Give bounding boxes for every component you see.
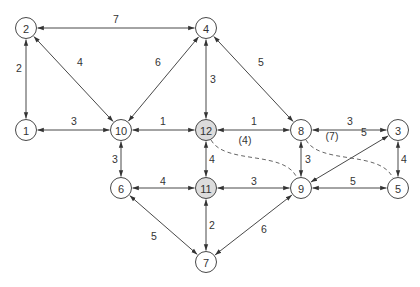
node-label: 1 [23,125,29,137]
edge-weight-label: 2 [16,62,22,74]
node-label: 10 [115,125,127,137]
network-graph: 724635311334345435526(4)(7) 123456789101… [0,0,420,287]
node-label: 12 [200,125,212,137]
edge-weight-label: 3 [71,115,77,127]
edge-weight-label: 4 [209,153,215,165]
edge-weight-label: 6 [261,223,267,235]
edge-weight-label: 2 [209,219,215,231]
node-1: 1 [16,120,37,141]
edge-weight-label: 4 [160,175,166,187]
edge-weight-label: 3 [305,153,311,165]
dashed-path-label: (7) [326,130,339,142]
node-7: 7 [196,252,217,273]
edge-weight-label: 6 [155,56,161,68]
node-4: 4 [196,18,217,39]
node-5: 5 [388,178,409,199]
edge-weight-label: 3 [347,115,353,127]
node-label: 4 [203,23,209,35]
edge-weight-label: 7 [113,13,119,25]
dashed-path-label: (4) [239,134,252,146]
node-12: 12 [196,120,217,141]
edge-weight-label: 4 [77,56,83,68]
edge-weight-label: 1 [160,115,166,127]
edge-weight-label: 4 [401,153,407,165]
edge-weight-label: 5 [361,126,367,138]
edge-weight-label: 5 [151,230,157,242]
edge-4-8 [214,36,293,121]
edge-weight-label: 5 [258,56,264,68]
edge-weight-label: 3 [112,153,118,165]
node-label: 8 [298,125,304,137]
nodes-layer: 123456789101112 [16,18,409,273]
node-label: 9 [298,183,304,195]
edge-4-10 [128,37,198,121]
edge-2-10 [34,36,113,121]
node-label: 11 [200,183,211,195]
dashed-path-12-9 [211,140,297,178]
node-label: 7 [203,257,209,269]
node-2: 2 [16,18,37,39]
edge-weight-label: 1 [251,115,257,127]
edge-weight-label: 3 [251,175,257,187]
edge-weight-label: 5 [350,175,356,187]
node-6: 6 [111,178,132,199]
edge-6-7 [130,196,198,255]
node-label: 5 [395,183,401,195]
node-label: 2 [23,23,29,35]
edge-9-7 [215,195,292,255]
node-10: 10 [111,120,132,141]
node-11: 11 [196,178,217,199]
node-3: 3 [388,120,409,141]
node-8: 8 [291,120,312,141]
node-label: 6 [118,183,124,195]
node-label: 3 [395,125,401,137]
edge-weight-label: 3 [210,73,216,85]
node-9: 9 [291,178,312,199]
